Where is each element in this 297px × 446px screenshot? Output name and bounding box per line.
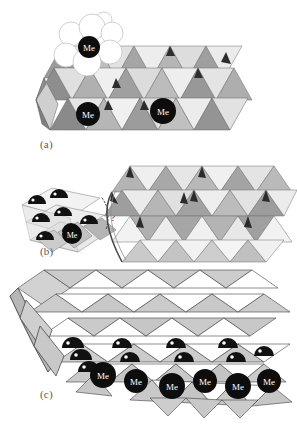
me-site: Me bbox=[193, 369, 217, 393]
me-label: Me bbox=[82, 110, 94, 120]
me-label: Me bbox=[263, 377, 275, 387]
me-site: Me bbox=[62, 224, 82, 244]
panel-label-a: (a) bbox=[40, 138, 53, 150]
me-label: Me bbox=[157, 107, 169, 117]
panel-a-polyhedra-mid bbox=[36, 68, 252, 100]
panel-b-me-sites: Me bbox=[62, 224, 82, 244]
me-site: Me bbox=[150, 98, 176, 124]
me-site: Me bbox=[124, 369, 148, 393]
me-label: Me bbox=[67, 231, 78, 240]
me-label: Me bbox=[232, 382, 244, 392]
crystal-structure-figure: Me Me Me bbox=[0, 0, 297, 446]
me-site: Me bbox=[90, 362, 116, 388]
panel-c-second-layer bbox=[30, 294, 290, 312]
me-label: Me bbox=[166, 382, 178, 392]
panel-label-b: (b) bbox=[40, 245, 53, 257]
me-label: Me bbox=[97, 371, 109, 381]
me-site: Me bbox=[78, 36, 100, 58]
me-site: Me bbox=[159, 373, 185, 399]
panel-c-third-layer bbox=[42, 318, 276, 336]
panel-label-c: (c) bbox=[40, 388, 53, 400]
me-site: Me bbox=[225, 373, 251, 399]
me-label: Me bbox=[130, 377, 142, 387]
me-site: Me bbox=[257, 369, 281, 393]
me-site: Me bbox=[76, 102, 100, 126]
me-label: Me bbox=[83, 43, 95, 53]
me-label: Me bbox=[199, 377, 211, 387]
